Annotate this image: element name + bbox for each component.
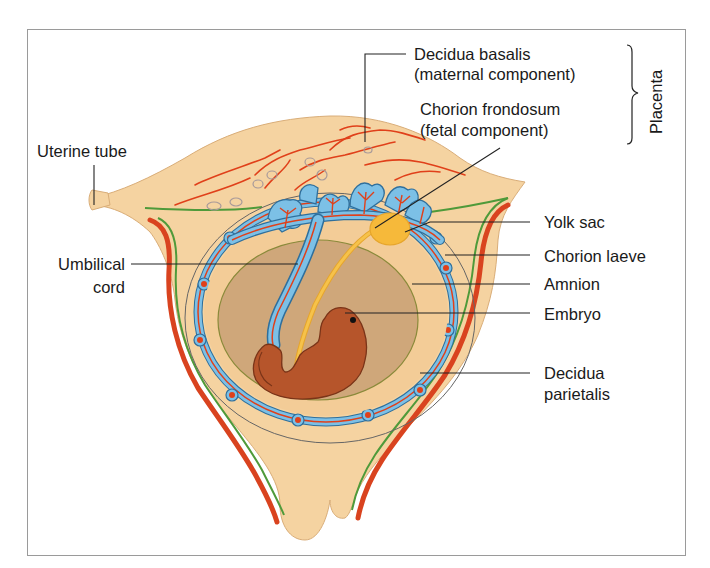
label-chorion-frondosum-1: Chorion frondosum bbox=[420, 100, 560, 118]
label-embryo: Embryo bbox=[544, 305, 601, 323]
label-yolk-sac: Yolk sac bbox=[544, 213, 605, 231]
label-decidua-parietalis-1: Decidua bbox=[544, 364, 605, 382]
label-placenta: Placenta bbox=[647, 69, 665, 134]
label-decidua-basalis-2: (maternal component) bbox=[414, 65, 575, 83]
label-decidua-basalis-1: Decidua basalis bbox=[414, 45, 530, 63]
label-chorion-laeve: Chorion laeve bbox=[544, 247, 646, 265]
label-decidua-parietalis-2: parietalis bbox=[544, 385, 610, 403]
diagram-canvas: Decidua basalis (maternal component) Cho… bbox=[0, 0, 710, 568]
embryo-eye-dot bbox=[350, 317, 356, 323]
label-uterine-tube: Uterine tube bbox=[37, 142, 127, 160]
label-umbilical-2: cord bbox=[93, 278, 125, 296]
label-chorion-frondosum-2: (fetal component) bbox=[420, 121, 548, 139]
label-umbilical-1: Umbilical bbox=[58, 255, 125, 273]
label-amnion: Amnion bbox=[544, 275, 600, 293]
